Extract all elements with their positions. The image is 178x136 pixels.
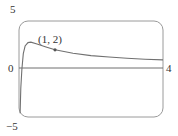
y-max-label: 5	[10, 4, 16, 15]
point-label: (1, 2)	[38, 34, 62, 45]
function-curve	[20, 42, 163, 113]
x-min-label: 0	[8, 63, 14, 74]
x-max-label: 4	[166, 63, 172, 74]
point-marker	[53, 48, 56, 51]
graph-canvas	[0, 0, 178, 136]
y-min-label: −5	[6, 121, 18, 132]
